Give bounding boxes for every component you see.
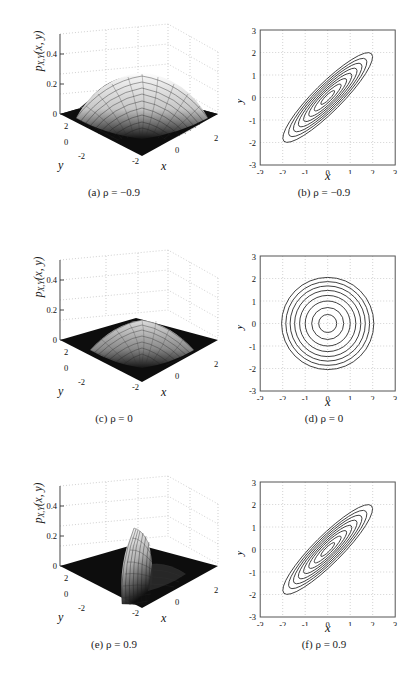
svg-text:-2: -2 <box>249 590 256 600</box>
svg-text:0: 0 <box>252 319 256 329</box>
contour-d-grid <box>260 256 395 391</box>
contour-plot-f: 3 2 1 0 -1 -2 -3 -3 -2 -1 0 1 2 3 y <box>238 458 410 626</box>
svg-text:0: 0 <box>175 145 179 155</box>
contour-f-xlabel: x <box>324 621 331 635</box>
figure-bivariate-gaussian: pX,Y(x, y) <box>0 0 419 678</box>
svg-text:0: 0 <box>175 597 179 607</box>
svg-text:0: 0 <box>175 371 179 381</box>
surface-e-canvas: 0.4 0.2 0 <box>18 458 223 626</box>
caption-c: (c) ρ = 0 <box>0 412 228 424</box>
svg-text:-1: -1 <box>249 342 256 352</box>
svg-text:-2: -2 <box>78 603 85 613</box>
contour-f-ylabel: y <box>238 550 245 558</box>
contour-b-ylabel: y <box>238 98 245 106</box>
svg-text:-1: -1 <box>249 116 256 126</box>
svg-text:0: 0 <box>64 589 68 599</box>
svg-text:0: 0 <box>53 335 57 345</box>
svg-text:1: 1 <box>252 297 256 307</box>
caption-f: (f) ρ = 0.9 <box>238 638 410 650</box>
svg-text:0: 0 <box>53 109 57 119</box>
svg-text:0.4: 0.4 <box>46 275 57 285</box>
surface-c-xlabel: x <box>160 385 167 399</box>
surface-c-ylabel: y <box>57 384 64 398</box>
svg-text:2: 2 <box>214 359 218 369</box>
contour-b-grid <box>260 30 395 165</box>
surface-e-xlabel: x <box>160 611 167 625</box>
svg-text:0.2: 0.2 <box>46 79 57 89</box>
svg-text:0.4: 0.4 <box>46 49 57 59</box>
svg-text:2: 2 <box>252 48 256 58</box>
surface-e-ylabel: y <box>57 610 64 624</box>
svg-text:0: 0 <box>53 561 57 571</box>
svg-text:2: 2 <box>64 347 68 357</box>
surface-c-zaxis: 0.4 0.2 0 <box>46 260 64 345</box>
svg-text:-1: -1 <box>249 568 256 578</box>
svg-text:0: 0 <box>64 363 68 373</box>
contour-b-xlabel: x <box>324 169 331 183</box>
caption-a: (a) ρ = −0.9 <box>0 186 228 198</box>
contour-f-ticks: 3 2 1 0 -1 -2 -3 -3 -2 -1 0 1 2 3 <box>249 478 397 627</box>
caption-d: (d) ρ = 0 <box>238 412 410 424</box>
svg-text:-2: -2 <box>132 608 139 618</box>
surface-plot-c: pX,Y(x, y) <box>18 232 223 400</box>
svg-text:0: 0 <box>64 137 68 147</box>
svg-text:2: 2 <box>64 121 68 131</box>
caption-b: (b) ρ = −0.9 <box>238 186 410 198</box>
surface-a-xlabel: x <box>160 159 167 173</box>
svg-text:3: 3 <box>252 252 256 262</box>
svg-text:2: 2 <box>214 585 218 595</box>
svg-text:0.4: 0.4 <box>46 501 57 511</box>
svg-text:0: 0 <box>252 545 256 555</box>
contour-f-canvas: 3 2 1 0 -1 -2 -3 -3 -2 -1 0 1 2 3 y <box>238 458 410 626</box>
surface-e-zaxis: 0.4 0.2 0 <box>46 486 64 571</box>
surface-a-canvas: 0.4 0.2 0 <box>18 6 223 174</box>
svg-text:3: 3 <box>252 26 256 36</box>
contour-b-canvas: 3 2 1 0 -1 -2 -3 -3 -2 -1 0 1 2 3 y <box>238 6 410 174</box>
surface-c-canvas: 0.4 0.2 0 <box>18 232 223 400</box>
surface-a-zaxis: 0.4 0.2 0 <box>46 34 64 119</box>
contour-b-ticks: 3 2 1 0 -1 -2 -3 -3 -2 -1 0 1 2 3 <box>249 26 397 175</box>
svg-text:1: 1 <box>252 523 256 533</box>
contour-plot-d: 3 2 1 0 -1 -2 -3 -3 -2 -1 0 1 2 3 y <box>238 232 410 400</box>
contour-d-canvas: 3 2 1 0 -1 -2 -3 -3 -2 -1 0 1 2 3 y <box>238 232 410 400</box>
svg-text:2: 2 <box>214 133 218 143</box>
svg-text:-2: -2 <box>132 382 139 392</box>
contour-d-ticks: 3 2 1 0 -1 -2 -3 -3 -2 -1 0 1 2 3 <box>249 252 397 401</box>
figure-row-rho-neg09: pX,Y(x, y) <box>0 0 419 226</box>
svg-text:0: 0 <box>252 93 256 103</box>
svg-text:-2: -2 <box>132 156 139 166</box>
surface-a-mesh <box>60 72 218 140</box>
contour-f-grid <box>260 482 395 617</box>
svg-text:2: 2 <box>252 274 256 284</box>
svg-text:2: 2 <box>64 573 68 583</box>
contour-d-ylabel: y <box>238 324 245 332</box>
svg-text:2: 2 <box>252 500 256 510</box>
svg-text:3: 3 <box>252 478 256 488</box>
surface-plot-a: pX,Y(x, y) <box>18 6 223 174</box>
figure-row-rho-pos09: pX,Y(x, y) <box>0 452 419 678</box>
svg-text:0.2: 0.2 <box>46 305 57 315</box>
figure-row-rho-0: pX,Y(x, y) <box>0 226 419 452</box>
svg-text:-2: -2 <box>78 151 85 161</box>
svg-text:-2: -2 <box>78 377 85 387</box>
surface-a-ylabel: y <box>57 158 64 172</box>
svg-text:0.2: 0.2 <box>46 531 57 541</box>
contour-d-xlabel: x <box>324 395 331 409</box>
svg-text:-2: -2 <box>249 364 256 374</box>
surface-plot-e: pX,Y(x, y) <box>18 458 223 626</box>
svg-text:1: 1 <box>252 71 256 81</box>
caption-e: (e) ρ = 0.9 <box>0 638 228 650</box>
contour-plot-b: 3 2 1 0 -1 -2 -3 -3 -2 -1 0 1 2 3 y <box>238 6 410 174</box>
svg-text:-2: -2 <box>249 138 256 148</box>
